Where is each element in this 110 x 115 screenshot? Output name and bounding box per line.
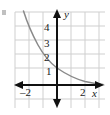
y-tick-label-3: 3	[44, 38, 50, 49]
x-tick-label-negative-2: –2	[20, 87, 31, 98]
y-axis-label: y	[64, 9, 69, 20]
curve-exponential-decay	[24, 11, 104, 84]
edge-artifact	[2, 10, 6, 15]
y-axis-arrow-up	[53, 9, 61, 18]
y-tick-label-2: 2	[44, 52, 50, 63]
y-tick-label-1: 1	[46, 66, 52, 77]
x-axis-label: x	[92, 88, 97, 99]
y-tick-label-4: 4	[44, 22, 50, 33]
exponential-graph-figure: 4 3 2 1 –2 2 y x	[0, 0, 110, 115]
y-axis	[53, 9, 61, 108]
x-tick-label-2: 2	[80, 87, 86, 98]
y-axis-arrow-down	[53, 99, 61, 108]
